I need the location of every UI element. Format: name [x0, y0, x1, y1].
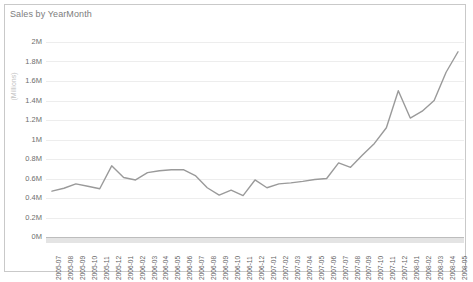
plot-area: [46, 42, 464, 237]
x-tick-label: 2007-02: [282, 256, 289, 280]
x-tick-label: 2007-05: [318, 256, 325, 280]
x-tick-label: 2006-03: [151, 256, 158, 280]
x-tick-label: 2005-12: [115, 256, 122, 280]
x-tick-label: 2006-10: [234, 256, 241, 280]
x-tick-label: 2007-07: [342, 256, 349, 280]
x-tick-label: 2007-10: [377, 256, 384, 280]
x-tick-label: 2008-05: [461, 256, 468, 280]
x-tick-label: 2006-02: [139, 256, 146, 280]
x-tick-label: 2007-09: [365, 256, 372, 280]
x-tick-label: 2006-01: [127, 256, 134, 280]
x-axis-band: [46, 238, 464, 243]
x-tick-label: 2007-12: [401, 256, 408, 280]
x-tick-label: 2005-08: [67, 256, 74, 280]
x-tick-label: 2006-07: [198, 256, 205, 280]
x-tick-label: 2007-04: [306, 256, 313, 280]
sales-line-series: [52, 52, 458, 196]
x-tick-label: 2005-07: [55, 256, 62, 280]
y-tick-label: 1.8M: [8, 57, 42, 66]
x-tick-label: 2007-08: [354, 256, 361, 280]
x-tick-label: 2005-10: [91, 256, 98, 280]
x-tick-label: 2006-04: [162, 256, 169, 280]
y-tick-label: 0.4M: [8, 193, 42, 202]
y-tick-label: 0M: [8, 232, 42, 241]
x-axis-ticks: 2005-072005-082005-092005-102005-112005-…: [46, 244, 464, 282]
x-tick-label: 2007-03: [294, 256, 301, 280]
y-tick-label: 0.2M: [8, 213, 42, 222]
x-tick-label: 2008-01: [413, 256, 420, 280]
y-tick-label: 1M: [8, 135, 42, 144]
x-tick-label: 2005-11: [103, 256, 110, 280]
x-tick-label: 2007-01: [270, 256, 277, 280]
x-tick-label: 2008-04: [449, 256, 456, 280]
x-tick-label: 2006-08: [210, 256, 217, 280]
y-axis-ticks: 2M1.8M1.6M1.4M1.2M1M0.8M0.6M0.4M0.2M0M: [5, 42, 42, 237]
y-tick-label: 1.2M: [8, 115, 42, 124]
x-tick-label: 2006-09: [222, 256, 229, 280]
x-tick-label: 2006-11: [246, 256, 253, 280]
chart-card: Sales by YearMonth (Millions) 2M1.8M1.6M…: [4, 4, 466, 272]
chart-title: Sales by YearMonth: [10, 9, 92, 19]
x-tick-label: 2008-02: [425, 256, 432, 280]
x-tick-label: 2005-09: [79, 256, 86, 280]
y-tick-label: 0.8M: [8, 154, 42, 163]
series-line-svg: [46, 42, 464, 237]
y-tick-label: 1.6M: [8, 76, 42, 85]
y-tick-label: 0.6M: [8, 174, 42, 183]
x-tick-label: 2006-05: [174, 256, 181, 280]
x-tick-label: 2007-06: [330, 256, 337, 280]
x-tick-label: 2006-12: [258, 256, 265, 280]
x-tick-label: 2008-03: [437, 256, 444, 280]
x-tick-label: 2007-11: [389, 256, 396, 280]
y-tick-label: 1.4M: [8, 96, 42, 105]
x-tick-label: 2006-06: [186, 256, 193, 280]
y-tick-label: 2M: [8, 37, 42, 46]
